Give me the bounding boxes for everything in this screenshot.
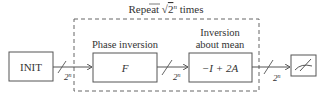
phase-inversion-title: Phase inversion	[92, 39, 159, 50]
wire-diffusion-to-measure: 2n	[252, 60, 290, 83]
init-label: INIT	[20, 61, 42, 73]
measurement-node	[291, 55, 316, 76]
phase-inversion-node: Phase inversion F	[92, 39, 159, 82]
inversion-title-line2: about mean	[196, 39, 245, 50]
wire-phase-to-diffusion: 2n	[157, 60, 188, 82]
repeat-loop-label: Repeat √2n times	[129, 3, 204, 15]
oracle-label: F	[121, 62, 129, 74]
wire-width-label: 2n	[64, 72, 72, 82]
init-node: INIT	[9, 52, 53, 81]
grover-circuit-diagram: Repeat √2n times INIT Phase inversion F …	[0, 0, 325, 100]
inversion-about-mean-node: Inversion about mean −I + 2A	[189, 27, 252, 82]
wire-width-label: 2n	[273, 73, 281, 83]
wire-width-label: 2n	[173, 72, 181, 82]
inversion-title-line1: Inversion	[200, 27, 240, 38]
wire-init-to-phase: 2n	[53, 61, 92, 82]
diffusion-operator-label: −I + 2A	[202, 62, 239, 74]
